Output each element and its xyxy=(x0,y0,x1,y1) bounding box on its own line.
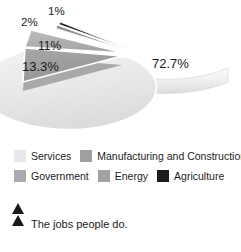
legend-label-services: Services xyxy=(31,151,71,162)
data-label-government: 13.3% xyxy=(22,60,59,73)
data-label-manufacturing: 11% xyxy=(38,40,61,52)
pie-chart-graphic: 72.7% 13.3% 11% 2% 1% xyxy=(0,0,241,140)
legend-label-manufacturing: Manufacturing and Construction xyxy=(97,151,241,162)
legend-swatch-government xyxy=(14,170,26,182)
legend-item-services: Services xyxy=(14,150,71,162)
legend-swatch-services xyxy=(14,150,26,162)
legend-item-energy: Energy xyxy=(98,170,148,182)
legend-item-government: Government xyxy=(14,170,89,182)
legend-item-manufacturing: Manufacturing and Construction xyxy=(80,150,241,162)
legend-item-agriculture: Agriculture xyxy=(157,170,224,182)
legend-swatch-energy xyxy=(98,170,110,182)
data-label-energy: 2% xyxy=(21,17,38,29)
legend-label-government: Government xyxy=(31,171,89,182)
legend-label-energy: Energy xyxy=(115,171,148,182)
data-label-services: 72.7% xyxy=(152,57,189,70)
legend-label-agriculture: Agriculture xyxy=(174,171,224,182)
triangle-up-icon xyxy=(12,215,24,226)
pie-chart-figure: 72.7% 13.3% 11% 2% 1% Services Manufactu… xyxy=(0,0,241,252)
caption-marker-group xyxy=(11,203,25,226)
legend-swatch-manufacturing xyxy=(80,150,92,162)
triangle-up-icon xyxy=(12,203,24,214)
figure-caption: The jobs people do. xyxy=(0,200,241,252)
legend-swatch-agriculture xyxy=(157,170,169,182)
legend-row-1: Services Manufacturing and Construction xyxy=(0,146,241,166)
data-label-agriculture: 1% xyxy=(48,6,65,18)
caption-text: The jobs people do. xyxy=(31,218,128,230)
legend-row-2: Government Energy Agriculture xyxy=(0,166,241,186)
chart-legend: Services Manufacturing and Construction … xyxy=(0,146,241,194)
